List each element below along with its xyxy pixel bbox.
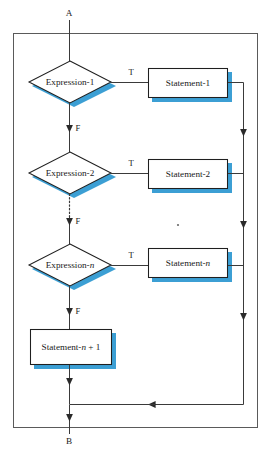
statement-n-plus-1-label-pre: Statement-: [42, 342, 82, 352]
expression-2-label: Expression-2: [46, 168, 95, 178]
expression-n-label-italic: n: [90, 260, 95, 270]
statement-n-label-text: Statement-: [166, 258, 206, 268]
edge-label-expression-2-true: T: [128, 158, 134, 168]
edge-label-expression-n-true: T: [128, 250, 134, 260]
expression-1-label: Expression-1: [46, 77, 95, 87]
expression-n-label: Expression-n: [46, 260, 95, 270]
edge-label-expression-2-false: F: [76, 216, 81, 226]
edge-label-expression-n-false: F: [76, 306, 81, 316]
entry-terminal-label: A: [66, 8, 73, 18]
statement-n-plus-1-label: Statement-n + 1: [42, 342, 101, 352]
statement-column-ellipsis-dot: [177, 224, 179, 226]
flowchart-canvas: A Expression-1 T Statement-1 F Expressio…: [0, 0, 275, 458]
flowchart-figure: A Expression-1 T Statement-1 F Expressio…: [0, 0, 275, 458]
edge-label-expression-1-false: F: [76, 123, 81, 133]
statement-n-label-italic: n: [206, 258, 211, 268]
statement-n-plus-1-label-post: + 1: [86, 342, 101, 352]
exit-terminal-label: B: [66, 436, 72, 446]
statement-2-label: Statement-2: [166, 169, 211, 179]
expression-n-label-text: Expression-: [46, 260, 90, 270]
statement-n-label: Statement-n: [166, 258, 211, 268]
edge-label-expression-1-true: T: [128, 67, 134, 77]
statement-1-label: Statement-1: [166, 78, 211, 88]
